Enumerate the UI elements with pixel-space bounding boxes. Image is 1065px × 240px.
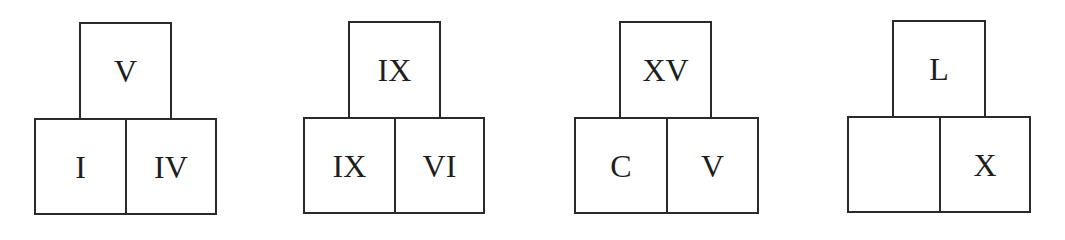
bottom-right-numeral: X bbox=[973, 149, 996, 181]
bottom-right-box: V bbox=[666, 117, 759, 214]
bottom-left-numeral: IX bbox=[333, 150, 367, 182]
bottom-right-box: VI bbox=[394, 117, 485, 214]
bottom-left-box: IX bbox=[303, 117, 396, 214]
top-numeral: L bbox=[929, 53, 949, 85]
top-numeral: XV bbox=[642, 54, 688, 86]
bottom-left-box: C bbox=[574, 117, 668, 214]
top-box: IX bbox=[348, 21, 441, 119]
bottom-left-numeral: I bbox=[75, 151, 86, 183]
top-box: V bbox=[79, 22, 172, 120]
top-numeral: V bbox=[114, 55, 137, 87]
bottom-left-box bbox=[847, 116, 941, 213]
bottom-left-numeral: C bbox=[610, 150, 631, 182]
bottom-right-box: IV bbox=[125, 118, 217, 215]
bottom-right-box: X bbox=[939, 116, 1031, 213]
top-box: L bbox=[892, 20, 986, 118]
top-numeral: IX bbox=[378, 54, 412, 86]
bottom-right-numeral: V bbox=[701, 150, 724, 182]
bottom-right-numeral: VI bbox=[423, 150, 457, 182]
bottom-right-numeral: IV bbox=[154, 151, 188, 183]
top-box: XV bbox=[619, 21, 712, 119]
bottom-left-box: I bbox=[34, 118, 127, 215]
